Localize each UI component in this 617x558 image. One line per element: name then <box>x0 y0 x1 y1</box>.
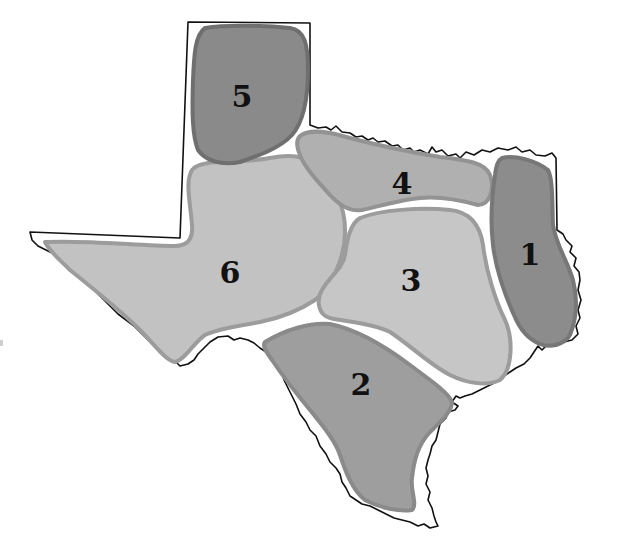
region-label-4: 4 <box>392 166 413 201</box>
scan-artifact <box>0 340 3 346</box>
region-label-1: 1 <box>520 237 541 272</box>
region-label-6: 6 <box>220 255 241 290</box>
texas-region-map: 6 5 4 3 1 2 <box>0 0 617 558</box>
region-label-5: 5 <box>232 79 253 114</box>
region-label-3: 3 <box>401 263 422 298</box>
region-label-2: 2 <box>351 367 372 402</box>
